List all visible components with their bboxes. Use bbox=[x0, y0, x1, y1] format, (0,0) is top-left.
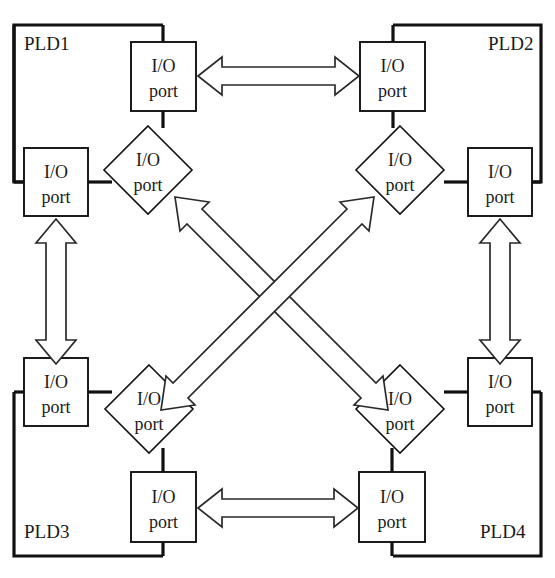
link-pld3-pld4-arrow[interactable] bbox=[198, 489, 358, 527]
pld3-left-port-label-1: I/O bbox=[44, 372, 68, 392]
pld2-group: I/O port I/O port I/O port PLD2 bbox=[356, 25, 541, 216]
pld4-bottom-port-label-2: port bbox=[378, 512, 407, 532]
pld4-diagonal-port-label-2: port bbox=[386, 414, 415, 434]
pld4-right-port-label-2: port bbox=[486, 397, 515, 417]
pld1-left-port-label-2: port bbox=[42, 187, 71, 207]
pld2-right-port-label-1: I/O bbox=[488, 162, 512, 182]
pld2-label: PLD2 bbox=[488, 33, 533, 54]
pld3-bottom-port-label-1: I/O bbox=[152, 487, 176, 507]
pld2-diagonal-port-label-1: I/O bbox=[388, 150, 412, 170]
pld4-bottom-port-label-1: I/O bbox=[380, 487, 404, 507]
pld2-top-port-label-1: I/O bbox=[381, 56, 405, 76]
pld4-label: PLD4 bbox=[480, 521, 526, 542]
pld3-diagonal-port-label-2: port bbox=[135, 414, 164, 434]
link-pld1-pld2-arrow[interactable] bbox=[198, 57, 359, 95]
pld3-bottom-port-label-2: port bbox=[149, 512, 178, 532]
pld1-top-port-label-1: I/O bbox=[152, 56, 176, 76]
pld3-left-port-label-2: port bbox=[42, 397, 71, 417]
pld2-top-port-label-2: port bbox=[378, 81, 407, 101]
link-pld2-pld4-arrow[interactable] bbox=[480, 219, 520, 364]
pld3-diagonal-port-label-1: I/O bbox=[137, 389, 161, 409]
pld1-label: PLD1 bbox=[24, 33, 69, 54]
pld1-diagonal-port-label-2: port bbox=[134, 175, 163, 195]
pld1-top-port-label-2: port bbox=[149, 81, 178, 101]
pld3-label: PLD3 bbox=[24, 521, 69, 542]
pld1-diagonal-port-label-1: I/O bbox=[136, 150, 160, 170]
link-pld1-pld3-arrow[interactable] bbox=[36, 219, 76, 364]
pld2-right-port-label-2: port bbox=[486, 187, 515, 207]
pld-interconnect-diagram: I/O port I/O port I/O port PLD1 I/O port… bbox=[0, 0, 555, 578]
pld1-left-port-label-1: I/O bbox=[44, 162, 68, 182]
pld2-diagonal-port-label-2: port bbox=[386, 175, 415, 195]
pld4-diagonal-port-label-1: I/O bbox=[388, 389, 412, 409]
pld4-right-port-label-1: I/O bbox=[488, 372, 512, 392]
pld1-group: I/O port I/O port I/O port PLD1 bbox=[14, 25, 196, 216]
